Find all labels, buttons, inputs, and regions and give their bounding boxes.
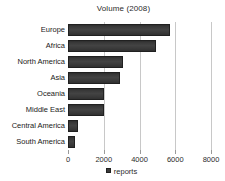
chart-legend: reports — [0, 166, 225, 176]
x-tick-label-4000: 4000 — [131, 155, 148, 164]
bar-chart: Volume (2008) EuropeAfricaNorth AmericaA… — [0, 0, 225, 181]
chart-title: Volume (2008) — [0, 4, 225, 13]
category-label-north-america: North America — [17, 54, 65, 70]
x-tick-label-0: 0 — [66, 155, 70, 164]
tick-mark-4000 — [140, 150, 141, 154]
tick-mark-2000 — [104, 150, 105, 154]
bar-africa[interactable] — [68, 40, 156, 52]
x-tick-label-6000: 6000 — [167, 155, 184, 164]
category-label-south-america: South America — [16, 134, 65, 150]
category-label-oceania: Oceania — [37, 86, 65, 102]
chart-row: Middle East — [68, 102, 211, 118]
chart-row: North America — [68, 54, 211, 70]
category-label-europe: Europe — [41, 22, 65, 38]
bar-middle-east[interactable] — [68, 104, 104, 116]
category-label-middle-east: Middle East — [26, 102, 65, 118]
tick-mark-8000 — [211, 150, 212, 154]
category-label-africa: Africa — [46, 38, 65, 54]
chart-row: Oceania — [68, 86, 211, 102]
x-tick-label-2000: 2000 — [95, 155, 112, 164]
bar-central-america[interactable] — [68, 120, 78, 132]
gridline-8000 — [211, 22, 212, 150]
legend-swatch-icon — [106, 168, 111, 173]
category-label-central-america: Central America — [12, 118, 65, 134]
tick-mark-6000 — [175, 150, 176, 154]
legend-label: reports — [114, 167, 137, 176]
chart-row: Europe — [68, 22, 211, 38]
chart-row: Central America — [68, 118, 211, 134]
bar-europe[interactable] — [68, 24, 170, 36]
plot-area: EuropeAfricaNorth AmericaAsiaOceaniaMidd… — [68, 22, 211, 150]
bar-asia[interactable] — [68, 72, 120, 84]
tick-mark-0 — [68, 150, 69, 154]
chart-row: Africa — [68, 38, 211, 54]
x-tick-label-8000: 8000 — [203, 155, 220, 164]
chart-row: Asia — [68, 70, 211, 86]
chart-row: South America — [68, 134, 211, 150]
category-label-asia: Asia — [50, 70, 65, 86]
bar-north-america[interactable] — [68, 56, 123, 68]
bar-oceania[interactable] — [68, 88, 104, 100]
bar-south-america[interactable] — [68, 136, 75, 148]
